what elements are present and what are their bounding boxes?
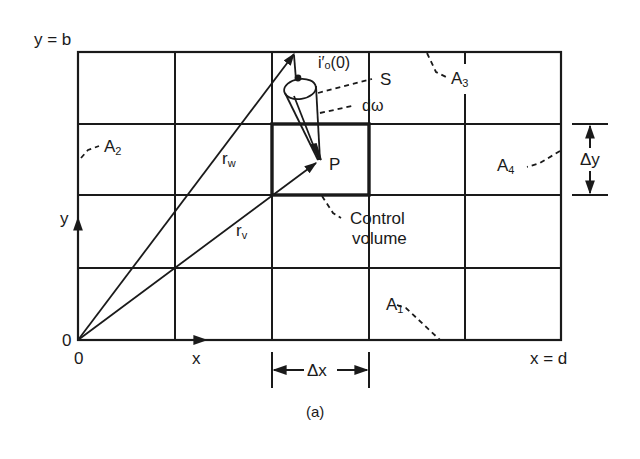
- boundary-A1-label: A1: [386, 296, 403, 315]
- leader-A2: [81, 146, 99, 158]
- leader-S: [318, 79, 372, 93]
- vector-rv-label: rv: [236, 222, 247, 241]
- right-bound-label: x = d: [530, 350, 567, 367]
- surface-S-label: S: [380, 71, 391, 88]
- origin-label-below: 0: [74, 350, 83, 367]
- top-bound-label: y = b: [34, 31, 71, 48]
- control-volume-label-line2: volume: [352, 230, 407, 247]
- vector-rw: [78, 54, 294, 340]
- x-axis-label: x: [192, 350, 201, 367]
- position-vectors: [78, 54, 316, 340]
- control-volume-label-line1: Control: [350, 210, 405, 227]
- boundary-A2-label: A2: [104, 138, 121, 157]
- figure-caption: (a): [306, 404, 324, 419]
- vector-rv: [78, 163, 316, 340]
- delta-y-label: Δy: [580, 151, 600, 168]
- solid-angle-label: dω: [362, 98, 383, 114]
- point-P-label: P: [329, 156, 340, 173]
- solid-angle-cone: [283, 55, 321, 160]
- origin-label-left: 0: [62, 332, 71, 349]
- boundary-A4-label: A4: [497, 157, 514, 176]
- axis-arrows: [78, 218, 206, 340]
- leader-control: [322, 196, 341, 218]
- y-axis-label: y: [60, 210, 69, 227]
- boundary-A3-label: A3: [451, 70, 468, 89]
- leader-A3: [427, 53, 446, 77]
- leader-domega: [320, 106, 352, 113]
- leader-A4: [527, 151, 560, 167]
- delta-x-label: Δx: [307, 362, 327, 379]
- intensity-label: i′ₒ(0): [318, 55, 350, 71]
- vector-rw-label: rw: [222, 150, 236, 169]
- radiation-grid-diagram: y = b x = d 0 0 y x rw rv P i′ₒ(0) S dω …: [0, 0, 640, 459]
